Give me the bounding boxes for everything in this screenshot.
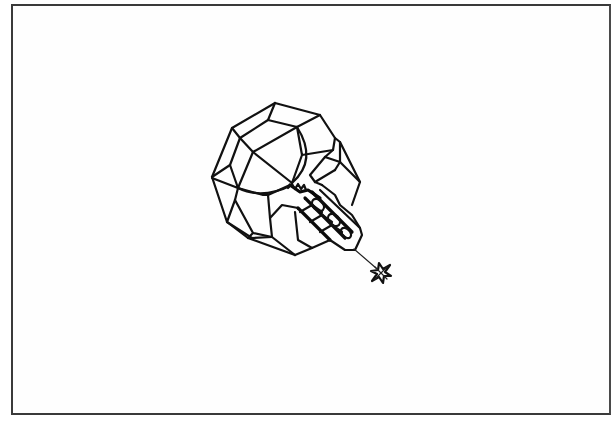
wireframe-drawing <box>0 0 612 425</box>
tether-line <box>354 249 376 268</box>
cylindrical-module <box>288 182 362 250</box>
